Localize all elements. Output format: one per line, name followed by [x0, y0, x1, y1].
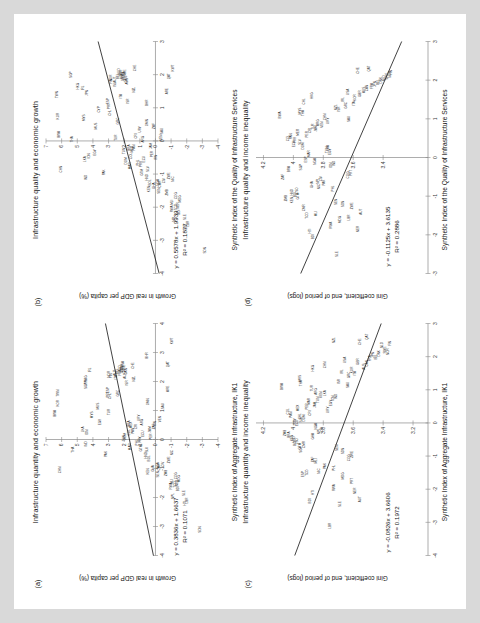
svg-text:VEN: VEN [320, 121, 324, 127]
svg-text:BHR: BHR [145, 98, 149, 105]
svg-text:IDN: IDN [85, 429, 89, 434]
svg-text:-2: -2 [159, 495, 165, 500]
svg-text:ITA: ITA [119, 92, 123, 97]
svg-text:BWA: BWA [280, 382, 284, 390]
svg-text:5: 5 [74, 443, 80, 446]
svg-text:2: 2 [432, 78, 438, 81]
svg-text:SAU: SAU [160, 127, 164, 133]
svg-text:-1: -1 [168, 144, 174, 149]
svg-text:PHL: PHL [331, 185, 335, 191]
svg-text:NGA: NGA [313, 157, 317, 165]
svg-text:ZMB: ZMB [164, 469, 168, 475]
panel-d-plot: -3-2-101233.43.63.844.2SLEBDIHTINERRWAMD… [256, 41, 428, 273]
svg-text:-1: -1 [168, 443, 174, 448]
svg-text:2: 2 [159, 73, 165, 76]
svg-text:PRT: PRT [107, 102, 111, 108]
svg-text:USA: USA [346, 87, 350, 94]
svg-text:SEN: SEN [156, 471, 160, 477]
svg-text:3.4: 3.4 [380, 426, 386, 433]
svg-text:4: 4 [90, 144, 96, 147]
screenshot-root: (a) Infrastructure quantity and economic… [0, 0, 480, 623]
panel-a-title: Infrastructure quantity and economic gro… [32, 314, 40, 589]
svg-text:IND: IND [84, 440, 88, 446]
svg-text:BRA: BRA [287, 165, 291, 172]
svg-text:CHN: CHN [323, 113, 327, 120]
svg-text:-3: -3 [199, 443, 205, 448]
svg-text:KOR: KOR [353, 93, 357, 100]
svg-text:ZWE: ZWE [167, 456, 171, 463]
svg-text:IRN: IRN [153, 420, 157, 425]
svg-text:CRI: CRI [134, 133, 138, 138]
svg-text:CIV: CIV [161, 460, 165, 466]
svg-text:SEN: SEN [334, 198, 338, 204]
svg-text:HKG: HKG [310, 91, 314, 98]
svg-text:QAT: QAT [167, 73, 171, 79]
svg-text:-2: -2 [432, 486, 438, 491]
panel-a-ylabel: Growth in real GDP per capita (%) [43, 575, 213, 582]
svg-text:0: 0 [159, 437, 165, 440]
svg-text:PAK: PAK [102, 169, 106, 175]
svg-text:PRY: PRY [138, 436, 142, 442]
svg-text:-4: -4 [159, 553, 165, 558]
panel-c-annotation: y = -0.0826x + 3.6606 R² = 0.1972 [384, 473, 402, 571]
svg-text:0: 0 [432, 421, 438, 424]
svg-text:CYP: CYP [97, 106, 101, 112]
panel-d-equation: y = -0.1125x + 3.6135 [384, 187, 393, 285]
svg-text:NZL: NZL [132, 86, 136, 92]
svg-text:NGA: NGA [156, 461, 160, 469]
svg-text:ARE: ARE [166, 385, 170, 391]
svg-text:IND: IND [332, 159, 336, 165]
svg-text:MYS: MYS [298, 374, 302, 381]
svg-text:MYS: MYS [82, 114, 86, 121]
panel-d-r2: R² = 0.2886 [393, 187, 402, 285]
svg-text:MLI: MLI [314, 210, 318, 215]
svg-text:CHE: CHE [131, 362, 135, 368]
svg-text:JAM: JAM [149, 142, 153, 149]
svg-text:MEX: MEX [296, 404, 300, 411]
svg-text:-4: -4 [159, 271, 165, 276]
svg-text:2: 2 [159, 379, 165, 382]
svg-text:4: 4 [290, 426, 296, 429]
figure-page: (a) Infrastructure quantity and economic… [14, 14, 466, 609]
svg-text:ISR: ISR [126, 97, 130, 103]
svg-text:-2: -2 [432, 232, 438, 237]
svg-text:-3: -3 [159, 237, 165, 242]
svg-text:IRL: IRL [340, 368, 344, 373]
svg-text:MYS: MYS [90, 411, 94, 418]
svg-text:3.6: 3.6 [350, 161, 356, 168]
svg-text:COG: COG [174, 471, 178, 479]
svg-text:THA: THA [70, 135, 74, 142]
svg-text:SDN: SDN [341, 200, 345, 206]
svg-text:CHE: CHE [356, 67, 360, 73]
panel-b-xlabel: Synthetic Index of the Quality of Infras… [231, 32, 238, 307]
svg-text:ZAF: ZAF [281, 173, 285, 179]
svg-text:NGA: NGA [156, 178, 160, 186]
svg-text:-3: -3 [432, 271, 438, 276]
svg-text:MAR: MAR [307, 397, 311, 405]
svg-text:FIN: FIN [389, 69, 393, 74]
svg-text:NZL: NZL [332, 336, 336, 342]
svg-text:BWA: BWA [57, 129, 61, 137]
svg-text:ISR: ISR [125, 379, 129, 385]
svg-text:JPN: JPN [84, 378, 88, 384]
svg-text:-4: -4 [215, 144, 221, 149]
svg-text:TWN: TWN [56, 389, 60, 396]
svg-text:AUS: AUS [125, 78, 129, 84]
svg-text:THA: THA [71, 445, 75, 452]
svg-text:KEN: KEN [290, 196, 294, 202]
svg-text:NGA: NGA [314, 421, 318, 429]
svg-text:KEN: KEN [147, 185, 151, 191]
svg-text:KEN: KEN [146, 468, 150, 474]
svg-text:BWA: BWA [278, 110, 282, 118]
svg-text:USA: USA [343, 355, 347, 362]
svg-text:TUR: TUR [107, 408, 111, 415]
svg-text:NER: NER [356, 225, 360, 232]
svg-text:IRL: IRL [341, 96, 345, 101]
svg-text:TUR: TUR [310, 384, 314, 391]
svg-text:IRL: IRL [88, 367, 92, 372]
panel-b-annotation: y = 0.5578x + 1.9939 R² = 0.1877 [172, 193, 190, 285]
svg-text:0: 0 [432, 155, 438, 158]
panel-d-ylabel: Gini coefficient, end of period (logs) [253, 293, 423, 300]
svg-text:QAT: QAT [367, 65, 371, 71]
svg-text:-3: -3 [432, 519, 438, 524]
